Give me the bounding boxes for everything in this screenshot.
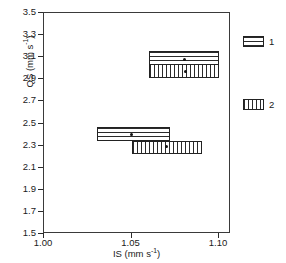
data-box-series-1 (97, 127, 171, 141)
plot-area (43, 12, 230, 233)
x-axis-title-text: IS (mm s (113, 248, 151, 259)
legend-label: 2 (269, 100, 274, 110)
legend-label: 1 (269, 37, 274, 47)
x-tick-mark (43, 233, 44, 238)
chart-figure: 1.51.71.92.12.32.52.72.93.13.33.5 1.001.… (0, 0, 286, 263)
x-tick-label: 1.10 (198, 238, 238, 248)
legend-swatch-vertical-lines (243, 99, 264, 110)
y-axis-title: QS (mm s-1) (24, 7, 35, 117)
y-axis-title-tail: ) (24, 36, 35, 39)
y-axis-title-exponent: -1 (22, 39, 29, 45)
x-tick-label: 1.00 (23, 238, 63, 248)
x-tick-label: 1.05 (111, 238, 151, 248)
x-tick-mark (131, 233, 132, 238)
x-axis-title-tail: ) (157, 248, 160, 259)
x-tick-mark (218, 233, 219, 238)
legend-swatch-horizontal-lines (243, 36, 264, 47)
y-axis-title-text: QS (mm s (24, 45, 35, 88)
x-axis-title: IS (mm s-1) (43, 248, 230, 259)
